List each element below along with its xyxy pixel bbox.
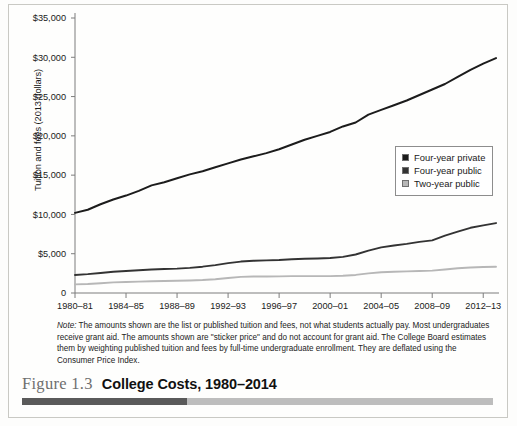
chart-legend: Four-year private Four-year public Two-y… [395,146,493,196]
caption-rule-dark-segment [22,398,187,405]
caption-rule-light-segment [187,398,493,405]
legend-swatch-two-year-public [402,180,409,187]
y-tick-label: $10,000 [33,210,66,220]
caption-rule [22,398,493,405]
note-label: Note: [57,321,76,330]
legend-item-two-year-public: Two-year public [402,177,485,190]
figure-container: Tuition and fees (2013 dollars) 0$5,000$… [0,0,517,426]
x-tick-label: 1988–89 [159,301,195,311]
series-line-four-year-public [75,223,496,275]
figure-title: College Costs, 1980–2014 [102,376,277,392]
legend-item-four-year-private: Four-year private [402,151,485,164]
legend-swatch-four-year-public [402,167,409,174]
x-tick-label: 2008–09 [414,301,450,311]
x-tick-label: 1996–97 [261,301,297,311]
y-tick-label: $35,000 [33,13,66,23]
figure-caption: Figure 1.3 College Costs, 1980–2014 [22,374,277,394]
note-text: The amounts shown are the list or publis… [57,321,489,365]
legend-label-four-year-public: Four-year public [414,164,482,177]
figure-number: Figure 1.3 [22,374,93,394]
legend-item-four-year-public: Four-year public [402,164,485,177]
legend-swatch-four-year-private [402,154,409,161]
x-tick-label: 1992–93 [210,301,246,311]
y-tick-label: $15,000 [33,170,66,180]
x-tick-label: 2004–05 [363,301,399,311]
y-tick-label: 0 [61,288,66,298]
y-tick-label: $25,000 [33,92,66,102]
x-tick-label: 1980–81 [57,301,93,311]
y-tick-label: $20,000 [33,131,66,141]
y-tick-label: $30,000 [33,53,66,63]
x-tick-label: 2000–01 [312,301,348,311]
figure-note: Note: The amounts shown are the list or … [57,320,493,366]
x-tick-label: 1984–85 [108,301,144,311]
x-tick-label: 2012–13 [465,301,501,311]
legend-label-two-year-public: Two-year public [414,177,480,190]
y-tick-label: $5,000 [38,249,66,259]
legend-label-four-year-private: Four-year private [414,151,485,164]
